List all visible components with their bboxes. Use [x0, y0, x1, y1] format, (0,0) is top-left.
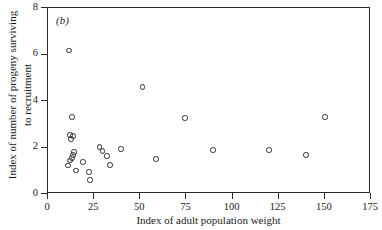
- y-axis-title-line-2: to recruitment: [20, 0, 35, 190]
- x-axis-tick-label: 125: [258, 201, 298, 212]
- data-point: [322, 114, 327, 119]
- data-point: [68, 136, 73, 141]
- x-axis-tick-label: 25: [73, 201, 113, 212]
- x-axis-tick: [278, 193, 279, 199]
- data-point: [118, 146, 123, 151]
- x-axis-tick-label: 75: [165, 201, 205, 212]
- data-point: [87, 177, 92, 182]
- y-axis-tick: [41, 7, 47, 8]
- scatter-plot-figure: (b) 024680255075100125150175 Index of ad…: [0, 0, 382, 230]
- data-point: [303, 152, 308, 157]
- data-point: [182, 115, 187, 120]
- x-axis-tick: [185, 193, 186, 199]
- x-axis-tick: [139, 193, 140, 199]
- x-axis-tick: [93, 193, 94, 199]
- y-axis-tick: [41, 54, 47, 55]
- data-point: [65, 163, 70, 168]
- data-point: [73, 168, 78, 173]
- data-point: [107, 162, 112, 167]
- y-axis-tick: [41, 100, 47, 101]
- x-axis-tick-label: 100: [212, 201, 252, 212]
- data-point: [104, 153, 109, 158]
- x-axis-tick: [370, 193, 371, 199]
- y-axis-tick: [41, 147, 47, 148]
- x-axis-tick-label: 0: [27, 201, 67, 212]
- data-point: [69, 114, 74, 119]
- x-axis-tick: [47, 193, 48, 199]
- data-point: [210, 147, 215, 152]
- x-axis-tick: [232, 193, 233, 199]
- data-point: [153, 156, 158, 161]
- panel-label: (b): [56, 14, 69, 26]
- y-axis-title-line-1: Index of number of progeny surviving: [5, 0, 20, 190]
- x-axis-tick-label: 175: [350, 201, 382, 212]
- x-axis-tick-label: 50: [119, 201, 159, 212]
- plot-area: [47, 7, 370, 193]
- x-axis-tick: [324, 193, 325, 199]
- data-point: [66, 48, 71, 53]
- y-axis-title: Index of number of progeny surviving to …: [5, 0, 41, 190]
- data-point: [86, 169, 91, 174]
- data-point: [80, 159, 85, 164]
- x-axis-title: Index of adult population weight: [47, 214, 370, 226]
- data-point: [266, 147, 271, 152]
- x-axis-tick-label: 150: [304, 201, 344, 212]
